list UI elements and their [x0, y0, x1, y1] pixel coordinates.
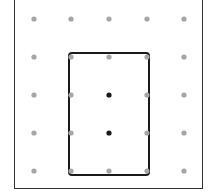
- peg: [181, 130, 186, 135]
- peg: [181, 16, 186, 21]
- peg: [144, 16, 149, 21]
- geoboard: [0, 0, 215, 192]
- peg: [144, 130, 149, 135]
- peg: [106, 168, 111, 173]
- peg: [106, 16, 111, 21]
- peg: [68, 168, 73, 173]
- highlighted-peg: [106, 130, 111, 135]
- peg: [31, 130, 36, 135]
- peg: [144, 54, 149, 59]
- peg: [68, 54, 73, 59]
- rubber-band-rectangle: [69, 53, 149, 175]
- peg: [106, 54, 111, 59]
- peg: [181, 54, 186, 59]
- peg: [144, 168, 149, 173]
- peg: [31, 16, 36, 21]
- peg: [181, 92, 186, 97]
- peg: [31, 92, 36, 97]
- highlighted-peg: [106, 92, 111, 97]
- peg: [68, 16, 73, 21]
- peg: [181, 168, 186, 173]
- peg: [31, 168, 36, 173]
- peg: [31, 54, 36, 59]
- peg: [68, 92, 73, 97]
- peg: [144, 92, 149, 97]
- peg: [68, 130, 73, 135]
